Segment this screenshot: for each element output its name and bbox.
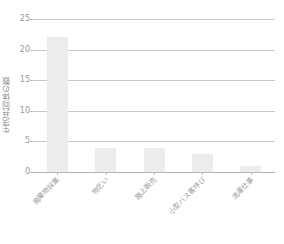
- gridline: [33, 19, 275, 20]
- x-tick-mark: [57, 172, 58, 175]
- y-tick-label: 15: [14, 76, 30, 84]
- y-tick-mark: [30, 80, 33, 81]
- y-tick-label: 0: [14, 168, 30, 176]
- gridline: [33, 80, 275, 81]
- x-tick-mark: [106, 172, 107, 175]
- y-axis-ticks: 0510152025: [14, 0, 30, 244]
- x-tick-mark: [251, 172, 252, 175]
- bar: [144, 148, 165, 172]
- x-tick-label: 小型バス客呼び: [168, 176, 208, 216]
- y-tick-label: 5: [14, 137, 30, 145]
- bar: [95, 148, 116, 172]
- y-tick-label: 25: [14, 15, 30, 23]
- bar: [47, 37, 68, 172]
- y-tick-mark: [30, 19, 33, 20]
- y-tick-mark: [30, 50, 33, 51]
- gridline: [33, 141, 275, 142]
- x-tick-label: 物乞い: [91, 176, 111, 196]
- y-tick-label: 20: [14, 46, 30, 54]
- bar: [192, 154, 213, 172]
- x-tick-mark: [154, 172, 155, 175]
- y-axis-title: 生活共同体の数: [0, 55, 14, 155]
- x-tick-mark: [202, 172, 203, 175]
- gridline: [33, 111, 275, 112]
- plot-area: [33, 19, 275, 172]
- y-tick-label: 10: [14, 107, 30, 115]
- y-tick-mark: [30, 141, 33, 142]
- x-tick-label: 廃棄物採集: [32, 176, 62, 206]
- x-tick-label: 路上販売: [134, 176, 159, 201]
- y-tick-mark: [30, 172, 33, 173]
- y-axis-title-text: 生活共同体の数: [3, 77, 11, 133]
- y-tick-mark: [30, 111, 33, 112]
- bar-chart: 生活共同体の数 0510152025 廃棄物採集物乞い路上販売小型バス客呼び洗濯…: [0, 0, 284, 244]
- gridline: [33, 50, 275, 51]
- x-tick-label: 洗濯仕事: [231, 176, 256, 201]
